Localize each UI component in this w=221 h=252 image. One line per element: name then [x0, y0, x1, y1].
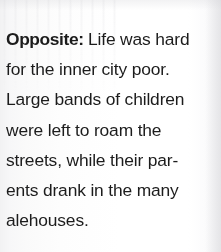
caption-line-1: Opposite: Life was hard: [6, 24, 218, 54]
scanned-caption-page: Opposite: Life was hard for the inner ci…: [0, 0, 221, 252]
caption-line-6: ents drank in the many: [6, 175, 218, 205]
caption-lead-in: Opposite:: [6, 29, 88, 49]
caption-line-1-text: Life was hard: [88, 29, 190, 49]
page-top-edge-shading: [0, 0, 221, 10]
caption-line-5: streets, while their par-: [6, 145, 218, 175]
caption-line-3: Large bands of children: [6, 84, 218, 114]
caption-text-block: Opposite: Life was hard for the inner ci…: [6, 24, 218, 235]
caption-line-7: alehouses.: [6, 205, 218, 235]
caption-line-2: for the inner city poor.: [6, 54, 218, 84]
caption-line-4: were left to roam the: [6, 115, 218, 145]
